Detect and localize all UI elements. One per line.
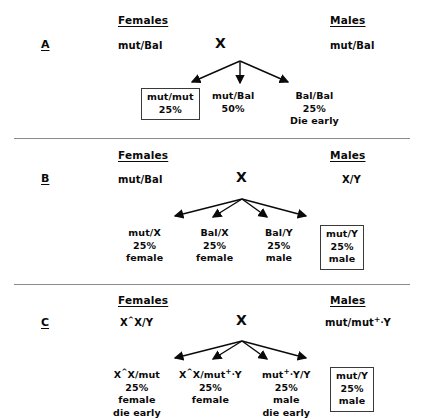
offspring-b-3: Bal/Y 25% male <box>265 227 293 265</box>
offspring-b-3-percent: 25% <box>265 240 293 253</box>
arrow-fan-c <box>163 337 318 367</box>
offspring-c-2-percent: 25% <box>179 382 242 395</box>
parent-male-b: X/Y <box>342 174 361 185</box>
parent-female-c: X^X/Y <box>120 317 153 328</box>
offspring-c-3-note2: die early <box>262 407 311 420</box>
offspring-c-3: mut+·Y/Y 25% male die early <box>262 369 311 419</box>
parent-male-c: mut/mut+·Y <box>325 317 391 328</box>
column-header-males-b: Males <box>330 149 366 161</box>
panel-letter-b: B <box>41 172 49 185</box>
offspring-a-2: mut/Bal 50% <box>212 90 254 115</box>
offspring-c-1-genotype: X^X/mut <box>113 369 161 382</box>
offspring-c-3-note: male <box>262 394 311 407</box>
offspring-c-2-note: female <box>179 394 242 407</box>
arrow-fan-b <box>163 195 318 225</box>
parent-female-a: mut/Bal <box>118 40 162 51</box>
offspring-a-1: mut/mut 25% <box>141 88 200 120</box>
offspring-c-3-percent: 25% <box>262 382 311 395</box>
offspring-b-1-genotype: mut/X <box>126 227 163 240</box>
offspring-b-2-genotype: Bal/X <box>196 227 233 240</box>
column-header-males-c: Males <box>330 294 366 306</box>
offspring-a-3: Bal/Bal 25% Die early <box>290 90 339 128</box>
column-header-females-b: Females <box>118 149 168 161</box>
offspring-b-3-genotype: Bal/Y <box>265 227 293 240</box>
offspring-b-2-note: female <box>196 252 233 265</box>
offspring-c-2: X^X/mut+·Y 25% female <box>179 369 242 407</box>
offspring-c-1-percent: 25% <box>113 382 161 395</box>
parent-male-a: mut/Bal <box>330 40 374 51</box>
offspring-a-3-genotype: Bal/Bal <box>290 90 339 103</box>
offspring-c-2-genotype: X^X/mut+·Y <box>179 369 242 382</box>
panel-b: Females Males B mut/Bal X X/Y mut/X 25% … <box>0 139 423 285</box>
offspring-c-3-genotype: mut+·Y/Y <box>262 369 311 382</box>
offspring-a-3-percent: 25% <box>290 103 339 116</box>
offspring-c-4-genotype: mut/Y <box>336 370 368 383</box>
cross-symbol-a: X <box>215 35 226 51</box>
offspring-b-2-percent: 25% <box>196 240 233 253</box>
offspring-a-1-genotype: mut/mut <box>147 91 194 104</box>
offspring-a-2-genotype: mut/Bal <box>212 90 254 103</box>
column-header-males-a: Males <box>330 14 366 26</box>
column-header-females-a: Females <box>118 14 168 26</box>
offspring-b-3-note: male <box>265 252 293 265</box>
offspring-c-4-note: male <box>336 395 368 408</box>
cross-symbol-c: X <box>236 312 247 328</box>
offspring-b-4-percent: 25% <box>326 241 358 254</box>
offspring-c-1: X^X/mut 25% female die early <box>113 369 161 419</box>
cross-symbol-b: X <box>236 169 247 185</box>
offspring-b-1: mut/X 25% female <box>126 227 163 265</box>
offspring-b-4-note: male <box>326 253 358 266</box>
offspring-a-1-percent: 25% <box>147 104 194 117</box>
offspring-b-2: Bal/X 25% female <box>196 227 233 265</box>
parent-female-b: mut/Bal <box>118 174 162 185</box>
panel-c: Females Males C X^X/Y X mut/mut+·Y X^X/m… <box>0 285 423 420</box>
offspring-c-4: mut/Y 25% male <box>330 367 374 412</box>
panel-letter-c: C <box>41 316 49 329</box>
panel-a: Females Males A mut/Bal X mut/Bal mut/mu… <box>0 0 423 139</box>
offspring-b-1-percent: 25% <box>126 240 163 253</box>
offspring-b-4-genotype: mut/Y <box>326 228 358 241</box>
genetics-cross-diagram: Females Males A mut/Bal X mut/Bal mut/mu… <box>0 0 423 420</box>
offspring-c-1-note2: die early <box>113 407 161 420</box>
offspring-b-1-note: female <box>126 252 163 265</box>
offspring-a-2-percent: 50% <box>212 103 254 116</box>
offspring-c-1-note: female <box>113 394 161 407</box>
offspring-a-3-note: Die early <box>290 115 339 128</box>
arrow-fan-a <box>178 58 303 90</box>
column-header-females-c: Females <box>118 294 168 306</box>
panel-letter-a: A <box>41 38 50 51</box>
offspring-c-4-percent: 25% <box>336 383 368 396</box>
offspring-b-4: mut/Y 25% male <box>320 225 364 270</box>
